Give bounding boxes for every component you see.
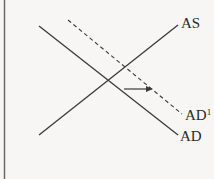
ad1-label-main: AD: [185, 107, 207, 123]
ad-label: AD: [180, 128, 202, 144]
as-label: AS: [181, 15, 200, 31]
ad1-curve: [68, 20, 182, 114]
shift-arrow: [124, 86, 153, 92]
ad1-label: AD1: [185, 107, 211, 123]
ad-as-diagram: AS AD1 AD: [0, 0, 214, 179]
ad1-label-superscript: 1: [207, 107, 212, 117]
